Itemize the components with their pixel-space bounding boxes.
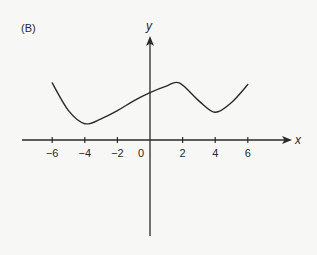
y-axis: y: [145, 19, 153, 236]
x-tick-label: −4: [79, 147, 92, 159]
function-graph: (B) x −6−4−20246 y: [0, 0, 317, 255]
x-tick-label: 4: [212, 147, 218, 159]
x-axis: x −6−4−20246: [22, 133, 302, 159]
x-axis-label: x: [294, 133, 302, 147]
x-tick-label: 2: [180, 147, 186, 159]
x-tick-label: 6: [245, 147, 251, 159]
x-tick-label: −6: [46, 147, 59, 159]
x-tick-label: 0: [138, 147, 144, 159]
x-tick-label: −2: [111, 147, 124, 159]
panel-label: (B): [21, 22, 36, 34]
y-axis-label: y: [145, 19, 153, 33]
